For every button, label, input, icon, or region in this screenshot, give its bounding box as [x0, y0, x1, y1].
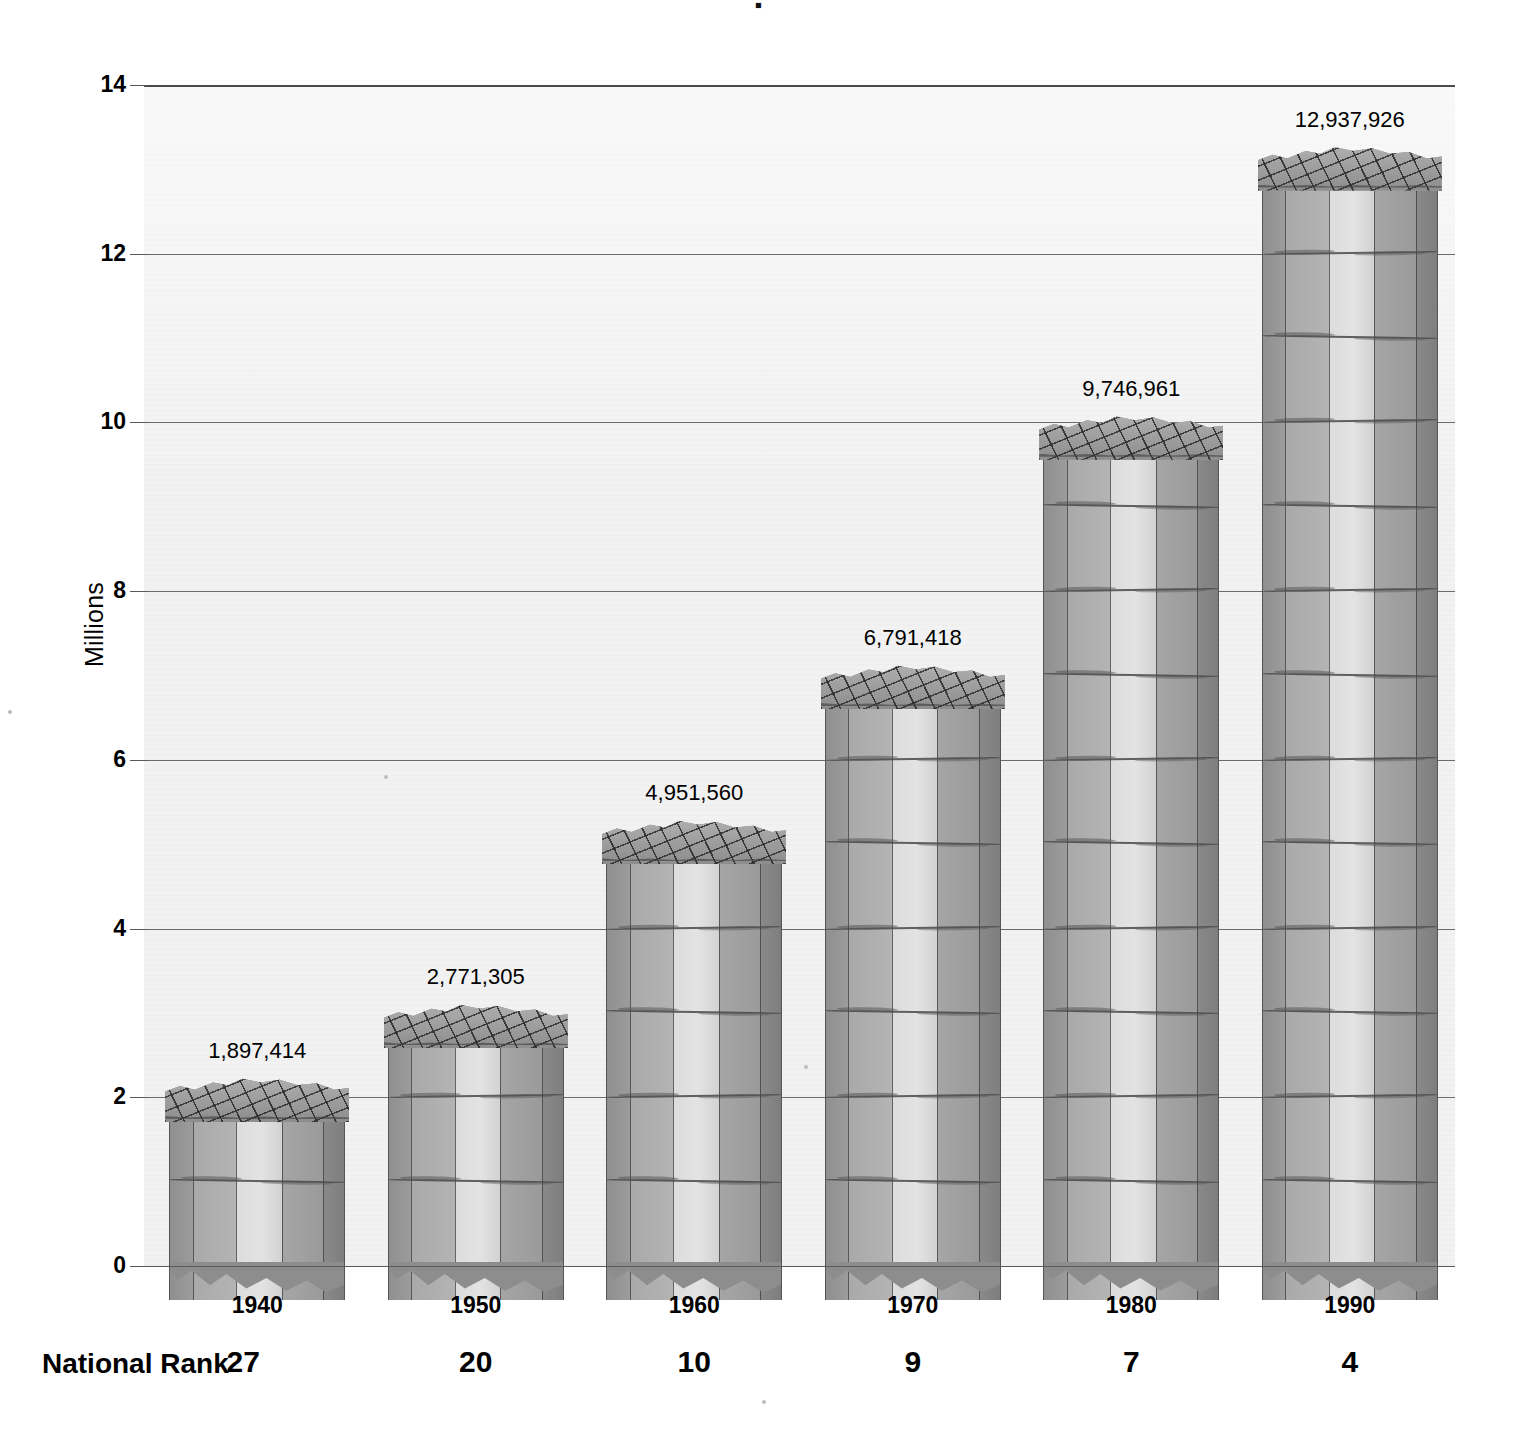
column-facet: [500, 1032, 542, 1300]
column-body: [1262, 175, 1438, 1300]
column-facet: [979, 693, 1000, 1300]
column-facet: [1329, 175, 1374, 1300]
bar-1970: [825, 693, 1001, 1300]
y-tick-dash: [130, 929, 148, 930]
y-tick-0: 0: [26, 1252, 126, 1279]
column-facet: [1285, 175, 1329, 1300]
column-facet: [848, 693, 892, 1300]
column-facet: [411, 1032, 455, 1300]
zero-axis-line: [132, 1266, 1455, 1267]
column-facet: [542, 1032, 563, 1300]
y-tick-dash: [130, 760, 148, 761]
cobblestone-texture: [1258, 145, 1442, 191]
bar-1940: [169, 1106, 345, 1300]
y-tick-dash: [130, 254, 148, 255]
y-tick-4: 4: [26, 915, 126, 942]
y-tick-14: 14: [26, 71, 126, 98]
cobblestone-texture: [602, 818, 786, 864]
column-facet: [389, 1032, 412, 1300]
x-tick-1970: 1970: [793, 1292, 1033, 1319]
x-tick-1980: 1980: [1011, 1292, 1251, 1319]
plot-area: 1,897,4142,771,3054,951,5606,791,4189,74…: [144, 85, 1455, 1266]
y-tick-8: 8: [26, 577, 126, 604]
y-tick-6: 6: [26, 746, 126, 773]
y-tick-dash: [130, 85, 148, 86]
column-facet: [1044, 444, 1067, 1300]
cobblestone-texture: [1039, 414, 1223, 460]
column-body: [1043, 444, 1219, 1300]
y-tick-12: 12: [26, 240, 126, 267]
cobblestone-texture: [821, 663, 1005, 709]
y-tick-dash: [130, 1266, 148, 1267]
y-axis-label: Millions: [80, 525, 109, 725]
column-facet: [1110, 444, 1155, 1300]
column-facet: [1263, 175, 1286, 1300]
column-rubble-cap: [602, 818, 786, 864]
rank-value-1940: 27: [123, 1345, 363, 1379]
column-facet: [719, 848, 761, 1300]
x-tick-1990: 1990: [1230, 1292, 1470, 1319]
y-tick-10: 10: [26, 408, 126, 435]
column-facet: [826, 693, 849, 1300]
column-facet: [630, 848, 674, 1300]
x-tick-1960: 1960: [574, 1292, 814, 1319]
column-rubble-cap: [1258, 145, 1442, 191]
column-body: [825, 693, 1001, 1300]
gridline-6: [144, 760, 1455, 761]
x-tick-1940: 1940: [137, 1292, 377, 1319]
y-tick-2: 2: [26, 1083, 126, 1110]
bar-value-label: 2,771,305: [427, 964, 525, 990]
bar-value-label: 6,791,418: [864, 625, 962, 651]
rank-value-1990: 4: [1230, 1345, 1470, 1379]
bar-value-label: 9,746,961: [1082, 376, 1180, 402]
column-rubble-cap: [165, 1076, 349, 1122]
column-body: [606, 848, 782, 1300]
column-rubble-cap: [384, 1002, 568, 1048]
column-facet: [1197, 444, 1218, 1300]
x-tick-1950: 1950: [356, 1292, 596, 1319]
gridline-10: [144, 422, 1455, 423]
column-facet: [1374, 175, 1416, 1300]
bar-1950: [388, 1032, 564, 1300]
rank-value-1980: 7: [1011, 1345, 1251, 1379]
column-facet: [1416, 175, 1437, 1300]
column-facet: [607, 848, 630, 1300]
chart-title-fragment: ▪: [0, 0, 1517, 16]
rank-value-1950: 20: [356, 1345, 596, 1379]
column-facet: [760, 848, 781, 1300]
rank-value-1960: 10: [574, 1345, 814, 1379]
column-rubble-cap: [821, 663, 1005, 709]
gridline-4: [144, 929, 1455, 930]
y-tick-dash: [130, 422, 148, 423]
bar-value-label: 1,897,414: [208, 1038, 306, 1064]
y-tick-dash: [130, 1097, 148, 1098]
column-facet: [1156, 444, 1198, 1300]
plot-background-texture: [144, 85, 1455, 1266]
bar-1980: [1043, 444, 1219, 1300]
rank-value-1970: 9: [793, 1345, 1033, 1379]
cobblestone-texture: [384, 1002, 568, 1048]
column-facet: [937, 693, 979, 1300]
bar-value-label: 12,937,926: [1295, 107, 1405, 133]
column-facet: [673, 848, 718, 1300]
column-facet: [1067, 444, 1111, 1300]
bar-1960: [606, 848, 782, 1300]
bar-value-label: 4,951,560: [645, 780, 743, 806]
cobblestone-texture: [165, 1076, 349, 1122]
column-facet: [892, 693, 937, 1300]
gridline-12: [144, 254, 1455, 255]
gridline-14: [144, 85, 1455, 87]
column-rubble-cap: [1039, 414, 1223, 460]
column-facet: [455, 1032, 500, 1300]
column-body: [169, 1106, 345, 1300]
bar-1990: [1262, 175, 1438, 1300]
gridline-8: [144, 591, 1455, 592]
column-body: [388, 1032, 564, 1300]
population-bar-chart: ▪ Millions 1,897,4142,771,3054,951,5606,…: [0, 0, 1517, 1451]
y-tick-dash: [130, 591, 148, 592]
